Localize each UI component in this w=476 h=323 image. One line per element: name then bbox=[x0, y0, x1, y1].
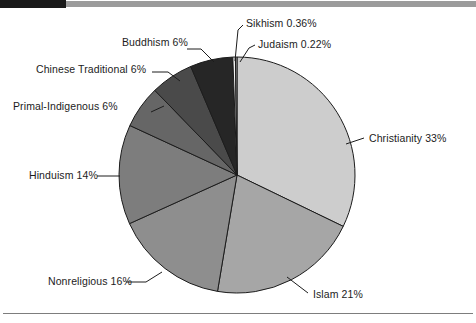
pie-label-islam: Islam 21% bbox=[313, 288, 363, 300]
leader-line-islam bbox=[287, 277, 308, 293]
pie-label-hinduism: Hinduism 14% bbox=[29, 169, 98, 181]
pie-label-chinese-traditional: Chinese Traditional 6% bbox=[36, 63, 146, 75]
leader-line-sikhism bbox=[235, 25, 243, 61]
bottom-divider bbox=[3, 313, 473, 314]
pie-label-christianity: Christianity 33% bbox=[369, 132, 446, 144]
pie-label-primal-indigenous: Primal-Indigenous 6% bbox=[13, 100, 118, 112]
pie-slice-group bbox=[119, 57, 355, 293]
pie-chart: Christianity 33% Islam 21% Nonreligious … bbox=[0, 0, 476, 323]
pie-label-sikhism: Sikhism 0.36% bbox=[246, 17, 317, 29]
pie-label-nonreligious: Nonreligious 16% bbox=[48, 275, 132, 287]
pie-label-judaism: Judaism 0.22% bbox=[258, 38, 331, 50]
pie-label-buddhism: Buddhism 6% bbox=[122, 36, 188, 48]
